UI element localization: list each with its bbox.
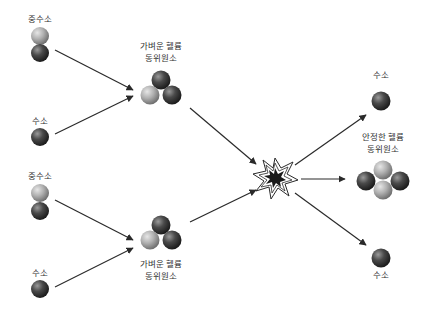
neutron-sphere [374,161,393,180]
label-hydrogen-output-bottom: 수소 [373,269,389,281]
deuterium-top [31,27,49,62]
label-line-1: 안정한 헬륨 [362,131,405,143]
label-light-helium-bottom: 가벼운 헬륨 동위원소 [140,258,183,282]
deuterium-bottom [31,184,49,220]
arrow-bottom-deuterium-to-light-helium [55,200,133,240]
proton-sphere [31,280,49,298]
arrow-top-light-helium-to-burst [190,108,256,164]
label-line-2: 동위원소 [140,270,183,282]
label-stable-helium: 안정한 헬륨 동위원소 [362,131,405,155]
neutron-sphere [31,184,49,202]
arrows [55,50,366,287]
proton-sphere [163,86,182,105]
arrow-bottom-hydrogen-to-light-helium [55,248,133,287]
arrow-burst-to-bottom-hydrogen [295,193,366,245]
proton-sphere [372,92,391,111]
arrow-bottom-light-helium-to-burst [190,190,256,222]
hydrogen-top-left [31,128,49,146]
hydrogen-output-bottom [372,249,391,268]
proton-sphere [357,172,376,191]
label-hydrogen-bottom: 수소 [32,267,48,279]
label-line-1: 가벼운 헬륨 [140,40,183,52]
hydrogen-bottom-left [31,280,49,298]
arrow-top-deuterium-to-light-helium [55,50,133,90]
proton-sphere [391,172,410,191]
label-hydrogen-output-top: 수소 [373,69,389,81]
fusion-diagram: 중수소 수소 중수소 수소 가벼운 헬륨 동위원소 가벼운 헬륨 동위원소 수소… [0,0,432,315]
label-light-helium-top: 가벼운 헬륨 동위원소 [140,40,183,64]
label-line-2: 동위원소 [140,52,183,64]
neutron-sphere [141,86,160,105]
label-hydrogen-top: 수소 [32,115,48,127]
label-line-2: 동위원소 [362,143,405,155]
light-helium-top [141,71,182,105]
proton-sphere [31,44,49,62]
fusion-burst-icon [253,158,298,199]
diagram-canvas [0,0,432,315]
label-deuterium-bottom: 중수소 [28,170,52,182]
proton-sphere [31,202,49,220]
neutron-sphere [374,181,393,200]
proton-sphere [372,249,391,268]
neutron-sphere [31,27,49,45]
arrow-burst-to-top-hydrogen [295,115,366,165]
neutron-sphere [141,231,160,250]
proton-sphere [163,231,182,250]
hydrogen-output-top [372,92,391,111]
label-line-1: 가벼운 헬륨 [140,258,183,270]
arrow-top-hydrogen-to-light-helium [55,96,133,134]
proton-sphere [31,128,49,146]
stable-helium [357,161,410,200]
light-helium-bottom [141,216,182,250]
label-deuterium-top: 중수소 [28,13,52,25]
